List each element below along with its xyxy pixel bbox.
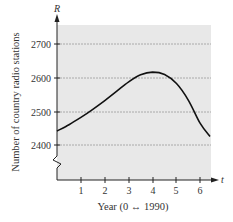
line-chart: R 2700 2600 2500 2400 Number of country … bbox=[0, 0, 233, 222]
y-axis-title: Number of country radio stations bbox=[10, 32, 21, 171]
y-tick-2500: 2500 bbox=[31, 107, 51, 118]
y-axis-variable: R bbox=[53, 3, 60, 14]
x-tick-6: 6 bbox=[198, 185, 203, 196]
x-tick-5: 5 bbox=[174, 185, 179, 196]
y-axis-arrow-icon bbox=[55, 14, 60, 22]
x-axis-arrow-icon bbox=[211, 178, 219, 183]
x-axis-title: Year (0 ↔ 1990) bbox=[98, 201, 169, 213]
x-axis-variable: t bbox=[221, 174, 224, 185]
x-tick-4: 4 bbox=[151, 185, 156, 196]
x-tick-3: 3 bbox=[127, 185, 132, 196]
x-tick-2: 2 bbox=[103, 185, 108, 196]
plot-area bbox=[57, 25, 211, 180]
y-tick-2600: 2600 bbox=[31, 73, 51, 84]
y-tick-2400: 2400 bbox=[31, 140, 51, 151]
y-tick-2700: 2700 bbox=[31, 39, 51, 50]
x-tick-1: 1 bbox=[79, 185, 84, 196]
